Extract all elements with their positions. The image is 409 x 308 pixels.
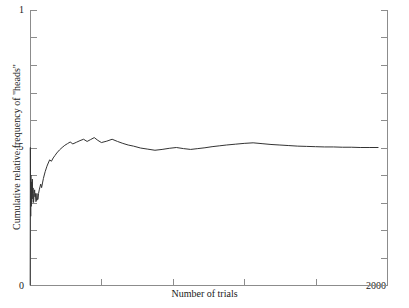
x-axis-title: Number of trials [0, 289, 409, 299]
chart-figure: Cumulative relative frequency of "heads"… [0, 0, 409, 308]
y-axis-tick-label-1: 1 [19, 5, 24, 15]
y-axis-tick-label-0point5: .5 [16, 142, 24, 152]
plot-area [30, 10, 388, 285]
data-series-line [30, 10, 388, 286]
